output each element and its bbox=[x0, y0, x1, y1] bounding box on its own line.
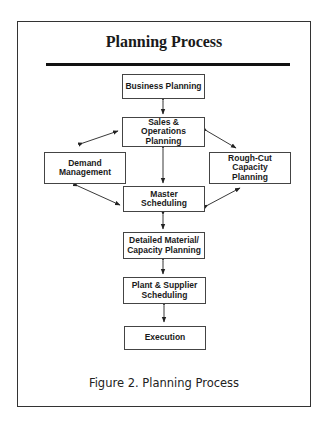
node-execution: Execution bbox=[124, 326, 206, 350]
arrow-demand-master bbox=[78, 186, 120, 205]
arrow-roughcut-master bbox=[208, 188, 240, 205]
arrow-sop-roughcut bbox=[207, 131, 236, 148]
node-master-scheduling: Master Scheduling bbox=[123, 186, 205, 212]
node-detailed-material-capacity-planning: Detailed Material/ Capacity Planning bbox=[123, 232, 205, 259]
figure-caption: Figure 2. Planning Process bbox=[0, 376, 328, 390]
arrow-sop-demand bbox=[83, 131, 118, 143]
node-rough-cut-capacity-planning: Rough-Cut Capacity Planning bbox=[209, 152, 291, 184]
node-sales-operations-planning: Sales & Operations Planning bbox=[122, 117, 205, 147]
node-demand-management: Demand Management bbox=[44, 152, 126, 184]
connector-arrows bbox=[0, 0, 328, 425]
node-plant-supplier-scheduling: Plant & Supplier Scheduling bbox=[123, 277, 206, 304]
node-business-planning: Business Planning bbox=[122, 74, 205, 99]
